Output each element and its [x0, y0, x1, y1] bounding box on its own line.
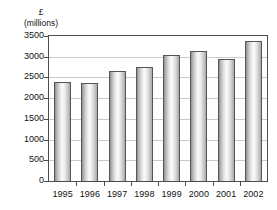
- bar-chart: · · £ (millions) 05001000150020002500300…: [0, 0, 277, 210]
- bar-2000: [190, 51, 207, 181]
- y-axis-unit-caption: £ (millions): [8, 7, 74, 28]
- y-axis-currency-symbol: £: [8, 7, 74, 18]
- y-axis-tick-label: 2500: [4, 72, 44, 81]
- y-axis-tick-label: 2000: [4, 93, 44, 102]
- x-axis-tick-mark: [158, 182, 159, 186]
- gridline: [49, 57, 267, 58]
- y-axis-tick-mark: [44, 77, 48, 78]
- y-axis-tick-label: 500: [4, 155, 44, 164]
- x-axis-tick-mark: [76, 182, 77, 186]
- y-axis-unit-scale: (millions): [8, 18, 74, 29]
- x-axis-tick-label: 2002: [233, 189, 273, 199]
- y-axis-tick-mark: [44, 181, 48, 182]
- y-axis-tick-label: 0: [4, 176, 44, 185]
- y-axis-tick-label: 3000: [4, 52, 44, 61]
- x-axis-tick-mark: [240, 182, 241, 186]
- y-axis-tick-label: 1500: [4, 114, 44, 123]
- y-axis-tick-mark: [44, 36, 48, 37]
- y-axis-tick-mark: [44, 57, 48, 58]
- x-axis-tick-mark: [213, 182, 214, 186]
- bar-2001: [218, 59, 235, 181]
- x-axis-tick-mark: [185, 182, 186, 186]
- bar-2002: [245, 41, 262, 181]
- plot-area: [48, 35, 268, 182]
- bar-1997: [109, 71, 126, 181]
- clipped-top-artifact: · ·: [18, 0, 35, 4]
- y-axis-tick-mark: [44, 119, 48, 120]
- y-axis-tick-label: 3500: [4, 31, 44, 40]
- bar-1995: [54, 82, 71, 181]
- y-axis-tick-label: 1000: [4, 135, 44, 144]
- y-axis-tick-mark: [44, 140, 48, 141]
- x-axis-tick-mark: [104, 182, 105, 186]
- bar-1996: [81, 83, 98, 181]
- bar-1999: [163, 55, 180, 181]
- bar-1998: [136, 67, 153, 181]
- y-axis-tick-mark: [44, 98, 48, 99]
- x-axis-tick-mark: [131, 182, 132, 186]
- y-axis-tick-mark: [44, 160, 48, 161]
